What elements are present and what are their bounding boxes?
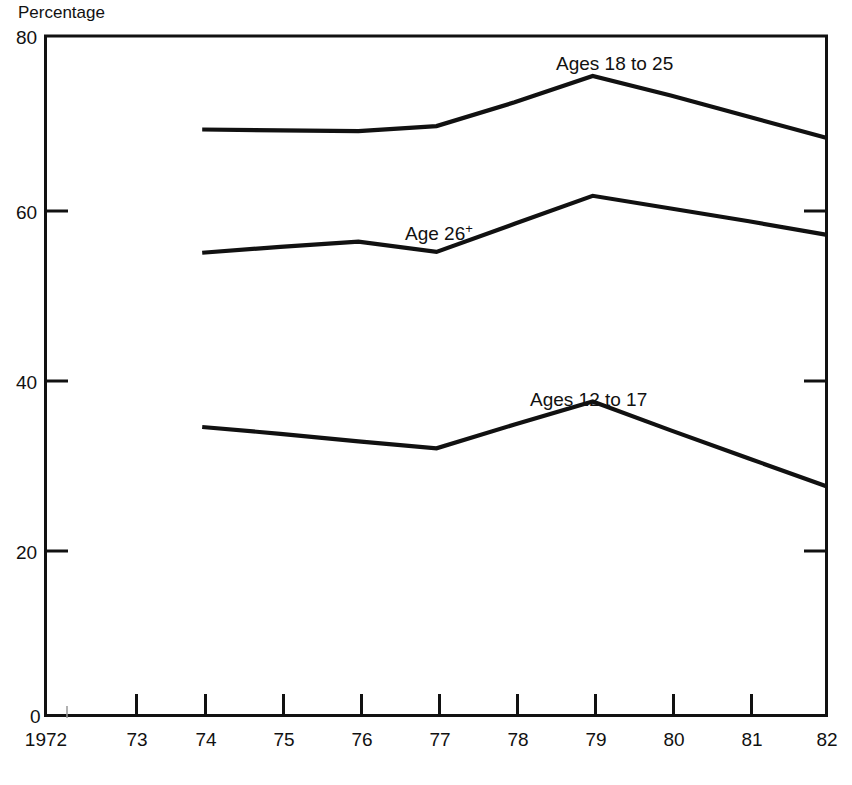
series-annotations: Ages 18 to 25 Age 26+ Ages 12 to 17	[405, 53, 673, 410]
x-label-73: 73	[126, 729, 147, 750]
x-axis-labels: 1972 73 74 75 76 77 78 79 80 81 82	[25, 729, 838, 750]
x-axis-ticks	[137, 694, 752, 715]
y-label-80: 80	[16, 27, 37, 48]
series-line-age-26	[202, 196, 827, 253]
y-axis-labels: 80 60 40 20 0	[16, 27, 41, 727]
x-label-77: 77	[429, 729, 450, 750]
y-axis-ticks-left	[46, 211, 68, 551]
x-label-76: 76	[351, 729, 372, 750]
x-label-75: 75	[273, 729, 294, 750]
chart-frame	[44, 35, 828, 717]
line-chart: Percentage 80 60 40 20 0	[0, 0, 852, 785]
x-label-79: 79	[585, 729, 606, 750]
x-label-81: 81	[741, 729, 762, 750]
y-axis-title: Percentage	[18, 3, 105, 22]
x-label-82: 82	[816, 729, 837, 750]
x-label-74: 74	[195, 729, 217, 750]
y-label-40: 40	[16, 372, 37, 393]
series-label-age-26-plus: Age 26+	[405, 221, 473, 244]
y-label-0: 0	[30, 706, 41, 727]
series-label-ages-12-to-17: Ages 12 to 17	[530, 389, 647, 410]
chart-container: Percentage 80 60 40 20 0	[0, 0, 852, 785]
x-label-1972: 1972	[25, 729, 67, 750]
data-series-group	[202, 76, 827, 487]
y-label-60: 60	[16, 202, 37, 223]
x-label-78: 78	[507, 729, 528, 750]
series-label-ages-18-to-25: Ages 18 to 25	[556, 53, 673, 74]
x-label-80: 80	[663, 729, 684, 750]
y-axis-ticks-right	[804, 211, 826, 551]
y-label-20: 20	[16, 542, 37, 563]
series-line-ages-18-to-25	[202, 76, 827, 138]
series-line-ages-12-to-17	[202, 402, 827, 487]
